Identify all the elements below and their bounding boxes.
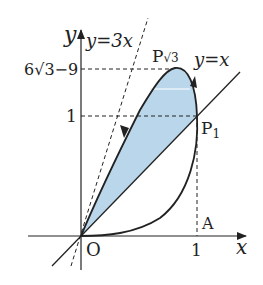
label-p1-sub: 1 [212,127,220,141]
origin-label: O [86,239,101,260]
diagram-svg: y x O 1 1 6√3−9 y=3x y=x P√3 P1 A [0,0,263,285]
label-y-eq-3x: y=3x [85,30,133,51]
tick-y-top: 6√3−9 [24,60,78,79]
x-axis-label: x [236,235,247,259]
tick-x-one: 1 [191,240,202,260]
label-p-sqrt3-main: P [152,46,163,66]
label-a: A [201,214,214,233]
diagram-canvas: y x O 1 1 6√3−9 y=3x y=x P√3 P1 A [0,0,263,285]
shaded-region [81,68,197,236]
tick-y-one: 1 [66,106,77,126]
y-axis-label: y [63,22,77,47]
label-y-eq-x: y=x [193,49,229,70]
label-p1-main: P [201,118,212,138]
label-p1: P1 [201,118,220,141]
label-p-sqrt3-sub: √3 [163,51,178,65]
label-p-sqrt3: P√3 [152,46,179,66]
